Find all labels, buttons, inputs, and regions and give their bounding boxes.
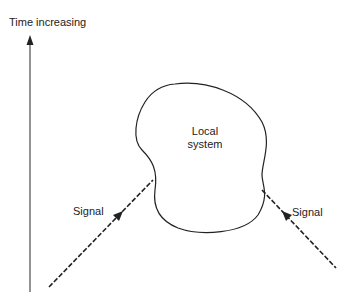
system-label: Local system: [180, 125, 230, 151]
system-label-line1: Local: [180, 125, 230, 138]
arrow-icon: [282, 211, 292, 221]
time-axis: [27, 35, 34, 292]
local-system-blob: [136, 83, 267, 232]
arrow-up-icon: [27, 35, 34, 45]
signal-left: [49, 180, 153, 287]
signal-right: [262, 190, 336, 268]
system-label-line2: system: [180, 138, 230, 151]
diagram-canvas: [0, 0, 353, 304]
signal-right-label: Signal: [292, 206, 323, 219]
axis-label: Time increasing: [9, 16, 86, 29]
signal-left-label: Signal: [73, 205, 104, 218]
